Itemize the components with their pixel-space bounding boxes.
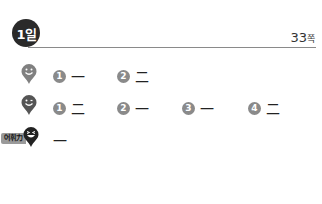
day-badge: 1일: [12, 19, 40, 47]
answer-text: 一: [53, 130, 68, 150]
page-unit: 쪽: [307, 34, 315, 44]
number-circle: 2: [117, 70, 130, 83]
page-label: 33쪽: [290, 30, 315, 45]
answer-text: 二: [266, 98, 281, 118]
answer-item: 一: [53, 130, 68, 150]
answer-text: 二: [71, 98, 86, 118]
number-circle: 4: [248, 102, 261, 115]
number-circle: 2: [117, 102, 130, 115]
wink-pin-icon: [21, 95, 37, 115]
answer-item: 3 一: [182, 98, 215, 118]
answer-text: 一: [71, 66, 86, 86]
number-circle: 3: [182, 102, 195, 115]
answer-text: 一: [135, 98, 150, 118]
header-rule: [28, 47, 316, 48]
laugh-pin-icon: [23, 127, 39, 147]
page-number: 33: [290, 30, 307, 45]
number-circle: 1: [53, 102, 66, 115]
number-circle: 1: [53, 70, 66, 83]
answer-text: 一: [200, 98, 215, 118]
answer-item: 1 二: [53, 98, 86, 118]
answer-item: 1 一: [53, 66, 86, 86]
smile-pin-icon: [21, 64, 37, 84]
answer-item: 2 二: [117, 66, 150, 86]
answer-text: 二: [135, 66, 150, 86]
answer-item: 2 一: [117, 98, 150, 118]
answer-item: 4 二: [248, 98, 281, 118]
